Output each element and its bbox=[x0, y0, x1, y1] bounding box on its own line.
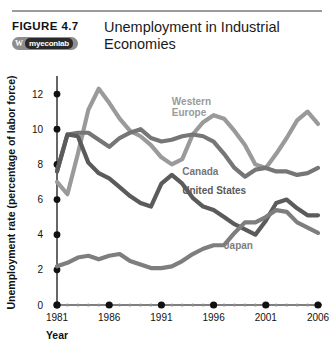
x-tick-dot-minor bbox=[223, 304, 226, 307]
x-tick-dot-minor bbox=[243, 304, 246, 307]
x-tick-dot-minor bbox=[139, 304, 142, 307]
x-axis-title: Year bbox=[46, 329, 68, 341]
x-tick-dot-minor bbox=[181, 304, 184, 307]
y-tick-label: 8 bbox=[37, 159, 43, 170]
y-axis-title: Unemployment rate (percentage of labor f… bbox=[5, 76, 17, 310]
chart-plot-area: 024681012 198119861991199620012006 Weste… bbox=[0, 62, 333, 354]
x-tick-dot-minor bbox=[66, 304, 69, 307]
x-axis: 198119861991199620012006 bbox=[46, 301, 330, 323]
series-label-western-europe: WesternEurope bbox=[172, 96, 211, 118]
y-tick-label: 12 bbox=[32, 89, 44, 100]
series-label-canada: Canada bbox=[182, 166, 219, 177]
figure-card: FIGURE 4.7 W myeconlab Unemployment in I… bbox=[0, 0, 333, 354]
x-tick-dot-minor bbox=[170, 304, 173, 307]
line-chart: 024681012 198119861991199620012006 Weste… bbox=[0, 62, 333, 354]
y-tick-dot bbox=[54, 126, 61, 133]
x-tick-dot-minor bbox=[254, 304, 257, 307]
x-tick-label: 2006 bbox=[307, 312, 330, 323]
myeconlab-logo-mark: W bbox=[15, 38, 23, 49]
y-tick-label: 4 bbox=[37, 229, 43, 240]
series-line-japan bbox=[57, 210, 318, 268]
y-tick-label: 2 bbox=[37, 264, 43, 275]
x-tick-dot-minor bbox=[202, 304, 205, 307]
y-tick-label: 6 bbox=[37, 194, 43, 205]
series-label-japan: Japan bbox=[224, 240, 253, 251]
x-tick-label: 1981 bbox=[46, 312, 69, 323]
x-tick-label: 1996 bbox=[202, 312, 225, 323]
x-tick-dot-minor bbox=[233, 304, 236, 307]
series-label-united-states: United States bbox=[182, 185, 246, 196]
myeconlab-logo-text: myeconlab bbox=[25, 38, 73, 49]
x-tick-dot-major bbox=[158, 301, 165, 308]
y-tick-label: 0 bbox=[37, 300, 43, 311]
x-tick-dot-minor bbox=[76, 304, 79, 307]
y-tick-dot bbox=[54, 196, 61, 203]
figure-number-label: FIGURE 4.7 bbox=[12, 20, 104, 32]
figure-header-left: FIGURE 4.7 W myeconlab bbox=[12, 19, 104, 50]
y-axis: 024681012 bbox=[32, 76, 61, 311]
y-tick-dot bbox=[54, 231, 61, 238]
x-tick-dot-minor bbox=[275, 304, 278, 307]
x-tick-dot-minor bbox=[296, 304, 299, 307]
x-tick-label: 2001 bbox=[255, 312, 278, 323]
x-tick-label: 1986 bbox=[98, 312, 121, 323]
x-tick-dot-minor bbox=[97, 304, 100, 307]
x-tick-dot-major bbox=[210, 301, 217, 308]
x-tick-dot-minor bbox=[87, 304, 90, 307]
x-tick-dot-minor bbox=[306, 304, 309, 307]
x-tick-dot-minor bbox=[285, 304, 288, 307]
x-tick-dot-major bbox=[262, 301, 269, 308]
x-tick-dot-major bbox=[314, 301, 321, 308]
y-tick-dot bbox=[54, 91, 61, 98]
x-tick-dot-minor bbox=[149, 304, 152, 307]
myeconlab-logo[interactable]: W myeconlab bbox=[12, 37, 78, 50]
x-tick-dot-minor bbox=[118, 304, 121, 307]
x-tick-label: 1991 bbox=[150, 312, 173, 323]
figure-title: Unemployment in Industrial Economies bbox=[104, 19, 322, 53]
x-tick-dot-major bbox=[53, 301, 60, 308]
figure-header: FIGURE 4.7 W myeconlab Unemployment in I… bbox=[12, 10, 322, 53]
x-tick-dot-major bbox=[106, 301, 113, 308]
x-tick-dot-minor bbox=[191, 304, 194, 307]
y-tick-label: 10 bbox=[32, 124, 44, 135]
x-tick-dot-minor bbox=[129, 304, 132, 307]
